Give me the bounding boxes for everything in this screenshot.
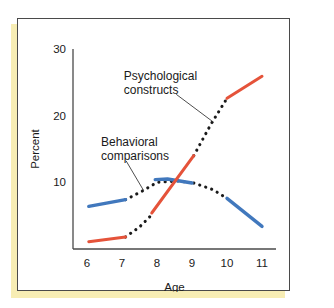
annotation-labels: PsychologicalconstructsBehavioralcompari… [101,69,197,163]
x-tick-label: 8 [154,257,160,269]
series-line-dotted [126,213,154,237]
annotation-label-line2: constructs [124,83,179,97]
y-axis-tick-labels: 102030 [53,43,66,188]
series-line-solid [89,200,126,207]
annotation-label-line1: Psychological [124,69,197,83]
annotation-label-line2: comparisons [101,149,169,163]
y-axis-title: Percent [29,128,41,168]
series-line-solid [227,76,262,98]
series-line-solid [89,237,126,242]
series-line-dotted [194,183,227,198]
x-tick-label: 11 [256,257,268,269]
series-line-dotted [194,98,227,155]
y-tick-label: 30 [53,43,66,55]
x-tick-label: 7 [119,257,125,269]
line-chart-canvas: 102030 67891011 PsychologicalconstructsB… [18,19,291,292]
annotation-leader-line [126,161,144,191]
annotation-label-line1: Behavioral [101,135,158,149]
annotation-leader-line [176,94,213,122]
y-tick-label: 20 [53,110,66,122]
x-tick-label: 9 [189,257,195,269]
figure-frame: 102030 67891011 PsychologicalconstructsB… [17,18,290,291]
x-axis-title: Age [164,281,184,292]
x-tick-label: 6 [84,257,90,269]
series-line-dotted [126,181,194,200]
series-line-solid [227,198,262,226]
y-tick-label: 10 [53,176,66,188]
x-tick-label: 10 [221,257,234,269]
series-line-solid [152,156,194,213]
x-axis-tick-labels: 67891011 [84,257,268,269]
